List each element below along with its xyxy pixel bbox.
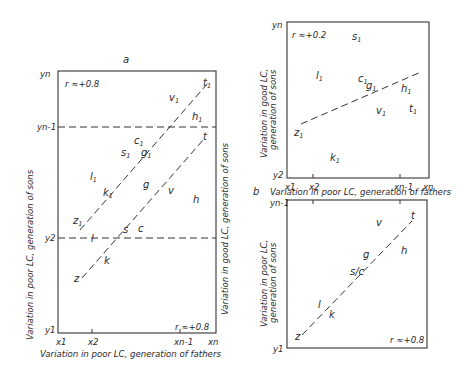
point-l: l [91,233,94,244]
panel-a-xlabel: Variation in poor LC, generation of fath… [40,349,221,359]
b-point-v1: v1 [376,105,386,118]
point-l1: l1 [90,171,97,184]
point-g: g [143,179,149,190]
panel-b-bottom-ylabel-2: generation of sons [268,242,278,323]
point-s: s [123,224,128,235]
bb-point-l: l [318,299,321,310]
point-c: c [138,223,144,234]
panel-b-bottom-points: v t h g s/c l k z [294,210,416,342]
panel-b-xlabel: Variation in poor LC, generation of fath… [270,187,451,197]
point-v: v [168,185,175,196]
lower-regression-line [82,139,204,278]
panel-b-label: b [253,186,259,197]
panel-b-top: yn y2 x1 x2 xn-1 xn b Variation in poor … [253,20,451,197]
y-tick-y2: y2 [44,233,56,243]
point-s1: s1 [121,147,130,160]
point-t: t [203,131,208,142]
x-tick-x1: x1 [55,337,67,347]
b-point-g1: g1 [366,80,377,93]
panel-a-ylabel-right: Variation in good LC, generation of sons [220,142,230,315]
bb-point-k: k [329,309,336,320]
x-tick-xn-1: xn-1 [173,337,193,347]
x-tick-x2: x2 [87,337,99,347]
panel-b-bottom: yn-1 y1 r ≈+0.8 Variation in poor LC, ge… [259,198,427,354]
panel-b-top-points: s1 l1 c1 g1 h1 v1 t1 z1 k1 [293,31,417,165]
panel-a: a yn yn-1 y2 y1 x1 x2 xn-1 xn r ≈+0.8 r … [25,54,230,359]
b-y-tick-y2: y2 [272,170,284,180]
b-y-tick-yn: yn [271,20,283,30]
b-point-s1: s1 [352,31,361,44]
x-tick-xn: xn [207,337,219,347]
point-k1: k1 [103,187,113,200]
r-value-b-top: r ≈+0.2 [292,30,326,40]
upper-points: t1 v1 h1 c1 s1 g1 l1 k1 z1 [72,77,211,228]
point-h1: h1 [192,111,202,124]
point-g1: g1 [141,147,152,160]
point-v1: v1 [169,92,179,105]
b-point-k1: k1 [330,152,340,165]
b-point-t1: t1 [409,103,417,116]
bb-point-h: h [401,245,407,256]
bb-y-tick-yn-1: yn-1 [269,198,289,208]
bb-point-s-c: s/c [350,266,365,277]
y-tick-yn-1: yn-1 [36,122,56,132]
panel-a-label: a [123,54,129,65]
bb-point-g: g [363,249,369,260]
r-value-bottom: r ≈+0.8 [175,322,210,332]
bb-point-t: t [411,210,416,221]
point-h: h [193,194,199,205]
y-tick-y1: y1 [44,325,56,335]
point-z: z [73,273,80,284]
r-value-b-bottom: r ≈+0.8 [390,335,425,345]
panel-b-top-ylabel-2: generation of sons [268,69,278,150]
panel-b-top-frame [287,22,429,178]
bb-point-z: z [294,331,301,342]
correlation-diagram: a yn yn-1 y2 y1 x1 x2 xn-1 xn r ≈+0.8 r … [0,0,474,372]
r-value-top: r ≈+0.8 [65,79,100,89]
b-point-h1: h1 [401,83,411,96]
point-k: k [104,255,111,266]
bb-y-tick-y1: y1 [272,344,284,354]
b-point-l1: l1 [316,70,323,83]
point-z1: z1 [72,215,82,228]
y-tick-yn: yn [39,69,51,79]
bb-point-v: v [376,217,383,228]
panel-a-ylabel-left: Variation in poor LC, generation of sons [25,169,35,340]
panel-b-bottom-regression-line [302,221,412,335]
b-point-z1: z1 [293,127,303,140]
